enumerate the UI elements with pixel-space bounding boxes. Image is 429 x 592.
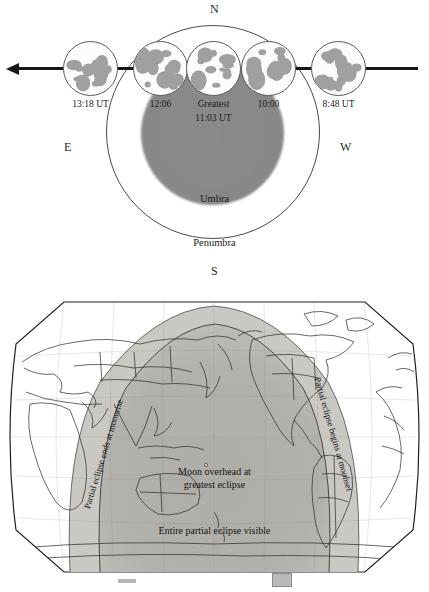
- moon-time-label-greatest-second-line: 11:03 UT: [174, 113, 254, 123]
- moon-phase-4: [241, 41, 296, 96]
- left-arrow-icon: [6, 63, 19, 75]
- map-corner-tag: [118, 579, 136, 583]
- penumbra-label: Penumbra: [0, 237, 429, 248]
- map-legend-swatch: [272, 573, 292, 587]
- eclipse-shadow-diagram: N S E W Umbra Penumbra 13:18 UT12:06Grea…: [0, 0, 429, 290]
- map-bottom-label: Entire partial eclipse visible: [0, 525, 429, 536]
- moon-phase-1: [63, 41, 118, 96]
- map-center-label: Moon overhead at greatest eclipse: [0, 465, 429, 491]
- compass-label-west: W: [340, 140, 352, 155]
- moon-time-label-5: 8:48 UT: [299, 99, 379, 109]
- moon-phase-5: [311, 41, 366, 96]
- moon-time-label-1: 13:18 UT: [51, 99, 131, 109]
- umbra-label: Umbra: [0, 193, 429, 204]
- moon-phase-3: [186, 41, 241, 96]
- compass-label-north: N: [0, 2, 429, 17]
- eclipse-visibility-map: Moon overhead at greatest eclipse Entire…: [0, 292, 429, 592]
- moon-time-label-4: 10:00: [229, 99, 309, 109]
- compass-label-east: E: [64, 140, 72, 155]
- map-center-line1: Moon overhead at: [0, 465, 429, 478]
- compass-label-south: S: [0, 264, 429, 279]
- map-center-line2: greatest eclipse: [0, 478, 429, 491]
- moon-phase-2: [133, 41, 188, 96]
